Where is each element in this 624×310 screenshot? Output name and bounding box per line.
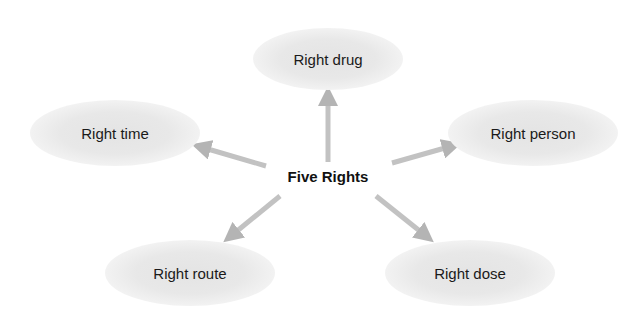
- node-right-time: Right time: [30, 100, 200, 166]
- node-right-drug: Right drug: [253, 28, 403, 90]
- arrow-to-right-route: [231, 196, 280, 236]
- arrow-to-right-person: [392, 146, 452, 163]
- center-label: Five Rights: [266, 168, 390, 185]
- arrow-to-right-dose: [376, 196, 426, 236]
- node-label: Right person: [490, 125, 575, 142]
- node-label: Right time: [81, 125, 149, 142]
- node-label: Right dose: [434, 265, 506, 282]
- arrow-to-right-time: [201, 147, 266, 166]
- node-right-dose: Right dose: [385, 240, 555, 306]
- node-right-person: Right person: [448, 100, 618, 166]
- node-label: Right route: [153, 265, 226, 282]
- node-right-route: Right route: [105, 240, 275, 306]
- node-label: Right drug: [293, 51, 362, 68]
